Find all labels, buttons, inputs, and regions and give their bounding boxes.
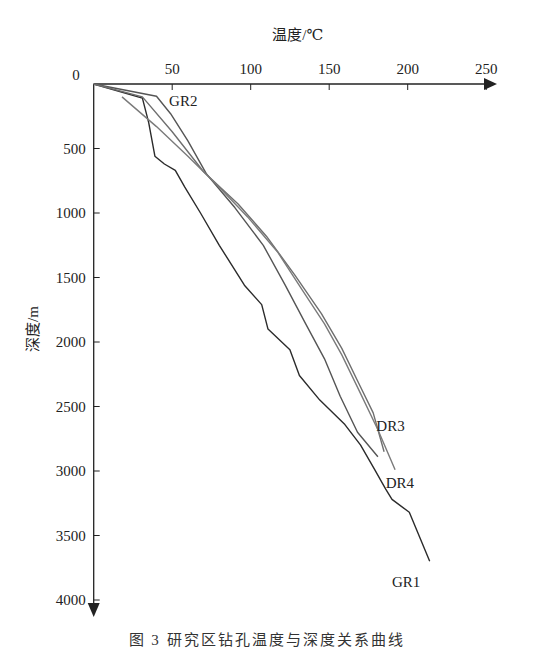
series-line-gr1 — [94, 84, 430, 561]
y-tick-label: 2000 — [56, 334, 86, 350]
y-tick-label: 1500 — [56, 270, 86, 286]
y-axis-title: 深度/m — [25, 306, 41, 352]
series-lines — [94, 84, 430, 561]
series-label-gr1: GR1 — [392, 574, 420, 590]
axes: 0501001502002505001000150020002500300035… — [25, 27, 497, 617]
y-tick-label: 3500 — [56, 528, 86, 544]
y-axis-arrow-icon — [88, 603, 100, 617]
origin-label: 0 — [72, 67, 80, 83]
x-axis-title: 温度/℃ — [272, 27, 323, 43]
x-tick-label: 50 — [165, 61, 180, 77]
y-tick-label: 3000 — [56, 463, 86, 479]
x-tick-label: 250 — [475, 61, 498, 77]
series-labels: GR2DR3DR4GR1 — [169, 93, 420, 590]
series-label-dr3: DR3 — [376, 418, 404, 434]
series-label-dr4: DR4 — [386, 475, 415, 491]
y-tick-label: 500 — [63, 141, 86, 157]
y-tick-label: 1000 — [56, 205, 86, 221]
y-tick-label: 4000 — [56, 592, 86, 608]
series-label-gr2: GR2 — [169, 93, 197, 109]
x-tick-label: 150 — [318, 61, 341, 77]
x-tick-label: 100 — [239, 61, 262, 77]
y-tick-label: 2500 — [56, 399, 86, 415]
figure-caption: 图 3 研究区钻孔温度与深度关系曲线 — [0, 628, 533, 649]
x-tick-label: 200 — [396, 61, 419, 77]
series-line-dr4 — [122, 97, 395, 470]
